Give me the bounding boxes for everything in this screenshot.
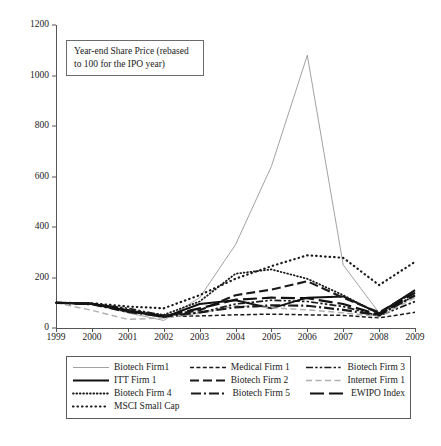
legend-item: Biotech Firm 2	[190, 374, 307, 387]
legend-item: Internet Firm 1	[306, 374, 405, 387]
x-axis-tick-label: 2009	[406, 333, 425, 343]
legend-item-label: Biotech Firm 4	[114, 387, 172, 400]
legend-item-label: Internet Firm 1	[347, 374, 405, 387]
x-axis-tick-label: 2003	[190, 333, 209, 343]
legend-item-label: Medical Firm 1	[231, 361, 290, 374]
legend-item: MSCI Small Cap	[73, 400, 193, 413]
legend-line-swatch-icon	[73, 402, 109, 411]
legend-item: Medical Firm 1	[190, 361, 307, 374]
share-price-line-chart: 020040060080010001200 199920002001200220…	[0, 0, 441, 446]
x-axis-tick-label: 2001	[118, 333, 137, 343]
legend-line-swatch-icon	[306, 376, 342, 385]
legend-item-label: ITT Firm 1	[114, 374, 157, 387]
legend-row: ITT Firm 1Biotech Firm 2Internet Firm 1	[73, 374, 405, 387]
legend-line-swatch-icon	[191, 389, 227, 398]
legend-line-swatch-icon	[73, 376, 109, 385]
legend-item: Biotech Firm 3	[306, 361, 405, 374]
legend-item-label: Biotech Firm 5	[232, 387, 290, 400]
legend-line-swatch-icon	[190, 376, 226, 385]
x-axis-tick-label: 2002	[154, 333, 173, 343]
legend-item: Biotech Firm 5	[191, 387, 309, 400]
chart-title-line-2: to 100 for the IPO year)	[74, 58, 197, 71]
legend-line-swatch-icon	[73, 389, 109, 398]
legend-item-label: EWIPO Index	[351, 387, 405, 400]
x-axis-tick-label: 1999	[47, 333, 66, 343]
legend-item: ITT Firm 1	[73, 374, 190, 387]
x-axis-tick-label: 2008	[370, 333, 389, 343]
legend-row: Biotech Firm1Medical Firm 1Biotech Firm …	[73, 361, 405, 374]
legend-item: Biotech Firm1	[73, 361, 190, 374]
legend-item: EWIPO Index	[310, 387, 405, 400]
x-axis-tick-label: 2004	[226, 333, 245, 343]
x-axis-tick-label: 2007	[334, 333, 353, 343]
x-axis-tick-label: 2006	[298, 333, 317, 343]
legend-line-swatch-icon	[310, 389, 346, 398]
x-axis-tick-label: 2000	[82, 333, 101, 343]
legend-item-label: Biotech Firm 3	[347, 361, 405, 374]
chart-legend: Biotech Firm1Medical Firm 1Biotech Firm …	[66, 356, 411, 419]
legend-line-swatch-icon	[306, 363, 342, 372]
legend-row: MSCI Small Cap	[73, 400, 405, 413]
chart-title-line-1: Year-end Share Price (rebased	[74, 45, 197, 58]
legend-item-label: Biotech Firm 2	[231, 374, 289, 387]
series-line	[56, 55, 415, 320]
legend-line-swatch-icon	[73, 363, 109, 372]
legend-item-label: MSCI Small Cap	[114, 400, 179, 413]
legend-line-swatch-icon	[190, 363, 226, 372]
x-axis-tick-label: 2005	[262, 333, 281, 343]
legend-item: Biotech Firm 4	[73, 387, 191, 400]
legend-row: Biotech Firm 4Biotech Firm 5EWIPO Index	[73, 387, 405, 400]
chart-title-box: Year-end Share Price (rebased to 100 for…	[66, 40, 204, 76]
legend-item-label: Biotech Firm1	[114, 361, 169, 374]
